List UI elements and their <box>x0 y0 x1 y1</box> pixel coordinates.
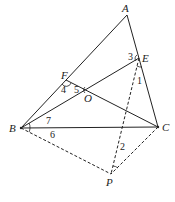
label-E: E <box>141 52 149 64</box>
segment-CF <box>66 80 158 127</box>
label-F: F <box>60 69 68 81</box>
geometry-diagram: A E F O B C P 3 1 4 5 7 6 2 <box>0 0 175 202</box>
angle-label-4: 4 <box>61 84 66 95</box>
segment-BP <box>21 128 111 174</box>
segment-EP <box>111 58 139 174</box>
angle-label-5: 5 <box>74 84 79 95</box>
segment-AB <box>21 15 127 128</box>
label-P: P <box>105 176 113 188</box>
segment-BE <box>21 58 139 128</box>
segment-BC <box>21 127 158 128</box>
angle-label-7: 7 <box>46 115 51 126</box>
angle-label-1: 1 <box>137 75 142 86</box>
label-C: C <box>162 121 170 133</box>
segment-CP <box>111 127 158 174</box>
angle-arc-6 <box>29 128 30 132</box>
segment-AC <box>127 15 158 127</box>
label-A: A <box>121 2 129 14</box>
point-C-dot <box>157 126 159 128</box>
label-B: B <box>9 122 16 134</box>
angle-arc-7 <box>29 123 30 128</box>
angle-label-2: 2 <box>120 141 125 152</box>
angle-label-3: 3 <box>128 51 133 62</box>
angle-label-6: 6 <box>50 129 55 140</box>
label-O: O <box>84 92 92 104</box>
point-B-dot <box>20 127 22 129</box>
angle-arc-2 <box>113 166 118 168</box>
